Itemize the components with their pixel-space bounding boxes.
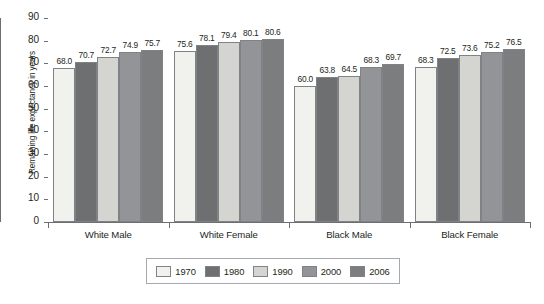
y-axis-tick-mark	[44, 109, 48, 110]
bar-group-bars: 68.372.573.675.276.5	[415, 18, 525, 222]
y-axis-tick-label: 20	[5, 170, 39, 181]
bar-slot: 64.5	[338, 18, 360, 222]
legend-item[interactable]: 2006	[350, 266, 389, 277]
bar-group: 75.678.179.480.180.6	[174, 18, 284, 222]
bar[interactable]	[141, 50, 163, 222]
bar[interactable]	[360, 67, 382, 222]
y-axis-tick-label: 40	[5, 124, 39, 135]
bar[interactable]	[415, 67, 437, 222]
bar-slot: 60.0	[294, 18, 316, 222]
x-axis-category-label: Black Female	[410, 229, 531, 240]
bar-slot: 63.8	[316, 18, 338, 222]
x-axis-category-label: White Male	[48, 229, 169, 240]
bar-slot: 80.6	[262, 18, 284, 222]
bar-slot: 76.5	[503, 18, 525, 222]
bar[interactable]	[53, 68, 75, 222]
legend-item[interactable]: 2000	[302, 266, 341, 277]
bar-group: 68.070.772.774.975.7	[53, 18, 163, 222]
bar-slot: 75.2	[481, 18, 503, 222]
bar-value-label: 69.7	[375, 52, 411, 62]
y-axis-line	[0, 18, 1, 222]
bar-slot: 68.0	[53, 18, 75, 222]
legend-label: 2000	[321, 266, 341, 277]
bar-value-label: 76.5	[496, 37, 532, 47]
bar-chart: Remaining life expectancy in years 01020…	[0, 0, 544, 304]
legend-swatch	[253, 266, 268, 277]
bar[interactable]	[316, 77, 338, 222]
bar-slot: 74.9	[119, 18, 141, 222]
bar[interactable]	[196, 45, 218, 222]
y-axis-tick-mark	[44, 41, 48, 42]
bar-slot: 75.7	[141, 18, 163, 222]
y-axis-tick-label: 60	[5, 79, 39, 90]
y-axis-tick-label: 70	[5, 56, 39, 67]
bar[interactable]	[218, 42, 240, 222]
x-axis-category-separator	[169, 222, 170, 228]
legend-label: 1970	[175, 266, 195, 277]
bar-slot: 78.1	[196, 18, 218, 222]
bar-group-bars: 68.070.772.774.975.7	[53, 18, 163, 222]
bar-slot: 75.6	[174, 18, 196, 222]
bar-slot: 80.1	[240, 18, 262, 222]
x-axis-category-label: White Female	[169, 229, 290, 240]
bar-slot: 68.3	[360, 18, 382, 222]
y-axis-tick-mark	[44, 86, 48, 87]
legend-swatch	[156, 266, 171, 277]
bar-group-bars: 60.063.864.568.369.7	[294, 18, 404, 222]
bar[interactable]	[75, 62, 97, 222]
bar-group-bars: 75.678.179.480.180.6	[174, 18, 284, 222]
bar[interactable]	[481, 52, 503, 222]
legend-item[interactable]: 1990	[253, 266, 292, 277]
bar[interactable]	[382, 64, 404, 222]
chart-legend: 19701980199020002006	[146, 258, 400, 284]
bar-value-label: 75.7	[134, 38, 170, 48]
bar[interactable]	[262, 39, 284, 222]
y-axis-tick-label: 50	[5, 102, 39, 113]
bar[interactable]	[503, 49, 525, 222]
bar[interactable]	[97, 57, 119, 222]
legend-item[interactable]: 1980	[205, 266, 244, 277]
legend-label: 1980	[224, 266, 244, 277]
x-axis-category-separator	[289, 222, 290, 228]
bar[interactable]	[240, 40, 262, 222]
y-axis-tick-mark	[44, 131, 48, 132]
bar-group: 60.063.864.568.369.7	[294, 18, 404, 222]
bar[interactable]	[119, 52, 141, 222]
bar-slot: 69.7	[382, 18, 404, 222]
clipped-top-text	[26, 0, 216, 4]
legend-swatch	[205, 266, 220, 277]
x-axis-category-separator	[48, 222, 49, 228]
y-axis-tick-mark	[44, 18, 48, 19]
x-axis-category-separator	[530, 222, 531, 228]
y-axis-tick-label: 30	[5, 147, 39, 158]
legend-swatch	[302, 266, 317, 277]
x-axis-category-label: Black Male	[289, 229, 410, 240]
bar-slot: 79.4	[218, 18, 240, 222]
legend-swatch	[350, 266, 365, 277]
y-axis-tick-label: 10	[5, 192, 39, 203]
bar[interactable]	[174, 51, 196, 222]
x-axis-category-separator	[410, 222, 411, 228]
legend-item[interactable]: 1970	[156, 266, 195, 277]
y-axis-tick-label: 0	[5, 215, 39, 226]
y-axis-tick-mark	[44, 199, 48, 200]
y-axis-tick-label: 90	[5, 11, 39, 22]
bar[interactable]	[459, 55, 481, 222]
bar[interactable]	[294, 86, 316, 222]
y-axis-tick-mark	[44, 177, 48, 178]
bar-group: 68.372.573.675.276.5	[415, 18, 525, 222]
y-axis-tick-mark	[44, 154, 48, 155]
bar-value-label: 80.6	[255, 27, 291, 37]
y-axis-tick-label: 80	[5, 34, 39, 45]
bar[interactable]	[338, 76, 360, 222]
legend-label: 2006	[369, 266, 389, 277]
legend-label: 1990	[272, 266, 292, 277]
bar[interactable]	[437, 58, 459, 222]
